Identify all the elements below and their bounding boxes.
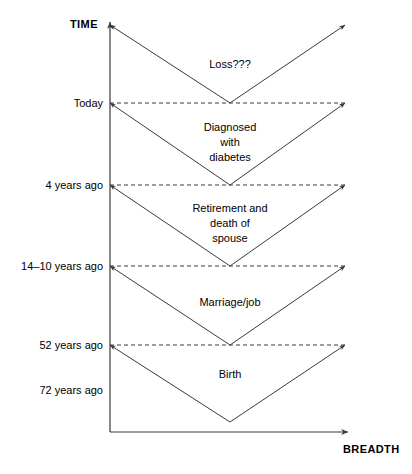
band-retirement-and-death-of-spouse-label: Retirement and death of spouse (192, 201, 267, 246)
time-label-four-years-ago: 4 years ago (46, 179, 103, 191)
band-birth-left-arrow (110, 345, 230, 422)
time-axis-label: TIME (70, 18, 98, 30)
band-loss-label: Loss??? (209, 57, 251, 72)
band-marriage-job-label: Marriage/job (199, 295, 260, 310)
band-birth-right-arrow (230, 345, 345, 422)
breadth-axis-label: BREADTH (343, 443, 400, 455)
time-label-today: Today (74, 97, 103, 109)
time-label-fourteen-ten-years-ago: 14–10 years ago (21, 260, 103, 272)
time-label-fiftytwo-years-ago: 52 years ago (39, 339, 103, 351)
band-diagnosed-with-diabetes-label: Diagnosed with diabetes (204, 120, 257, 165)
life-course-diagram: TIME BREADTH Today4 years ago14–10 years… (0, 0, 412, 474)
time-label-seventytwo-years-ago: 72 years ago (39, 384, 103, 396)
band-birth-label: Birth (219, 367, 242, 382)
